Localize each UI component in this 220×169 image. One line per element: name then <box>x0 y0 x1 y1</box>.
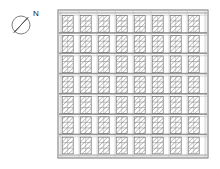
building-block <box>98 15 109 32</box>
building-block <box>170 117 181 134</box>
building-block <box>98 56 109 73</box>
building-block <box>170 56 181 73</box>
building-block <box>134 36 145 53</box>
building-block <box>152 56 163 73</box>
building-block <box>116 36 127 53</box>
building-block <box>98 36 109 53</box>
building-block <box>188 117 199 134</box>
building-block <box>62 76 73 93</box>
building-block <box>134 117 145 134</box>
building-block <box>80 56 91 73</box>
building-block <box>170 137 181 154</box>
building-block <box>188 36 199 53</box>
building-block <box>98 97 109 114</box>
building-block <box>98 137 109 154</box>
building-block <box>80 76 91 93</box>
north-label: N <box>33 9 39 18</box>
building-block <box>62 117 73 134</box>
building-block <box>116 76 127 93</box>
building-block <box>62 15 73 32</box>
building-block <box>62 137 73 154</box>
building-block <box>116 56 127 73</box>
building-block <box>188 15 199 32</box>
building-block <box>80 15 91 32</box>
building-block <box>170 15 181 32</box>
building-block <box>98 76 109 93</box>
building-block <box>170 97 181 114</box>
building-block <box>188 56 199 73</box>
building-block <box>152 36 163 53</box>
building-block <box>80 117 91 134</box>
building-block <box>152 137 163 154</box>
building-block <box>134 56 145 73</box>
site-plan-drawing: N <box>0 0 220 169</box>
building-block <box>62 36 73 53</box>
building-block <box>188 76 199 93</box>
building-block <box>152 97 163 114</box>
site-plan-grid <box>58 10 208 158</box>
building-block <box>134 137 145 154</box>
building-block <box>116 15 127 32</box>
building-block <box>134 76 145 93</box>
building-block <box>188 137 199 154</box>
building-block <box>188 97 199 114</box>
building-block <box>134 15 145 32</box>
building-block <box>170 76 181 93</box>
building-block <box>62 97 73 114</box>
building-block <box>80 137 91 154</box>
building-block <box>80 36 91 53</box>
building-block <box>134 97 145 114</box>
building-block <box>62 56 73 73</box>
building-block <box>116 117 127 134</box>
building-block <box>152 15 163 32</box>
building-block <box>80 97 91 114</box>
building-block <box>152 117 163 134</box>
building-block <box>170 36 181 53</box>
building-block <box>152 76 163 93</box>
building-block <box>98 117 109 134</box>
building-block <box>116 137 127 154</box>
building-block <box>116 97 127 114</box>
